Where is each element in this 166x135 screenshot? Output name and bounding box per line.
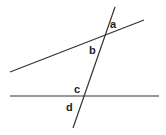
transversal-line xyxy=(73,7,115,128)
angle-label-c: c xyxy=(74,83,80,95)
angle-label-b: b xyxy=(89,44,96,56)
angles-diagram: a b c d xyxy=(0,0,166,135)
angle-label-d: d xyxy=(66,101,73,113)
angle-label-a: a xyxy=(110,18,117,30)
upper-line xyxy=(10,20,144,72)
